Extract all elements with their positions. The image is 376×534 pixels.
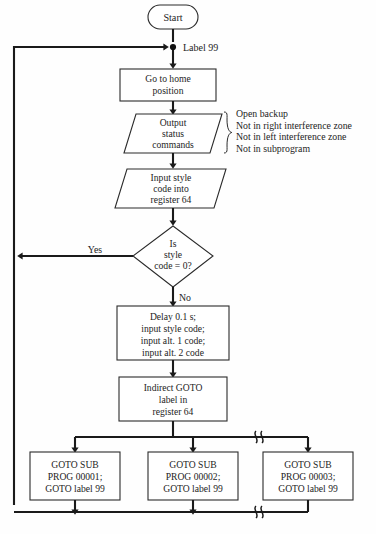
node-input-style-line-3: register 64 <box>151 194 192 205</box>
node-decision: Is style code = 0? <box>133 226 213 287</box>
node-sub3-line-2: PROG 00003; <box>281 471 336 482</box>
node-sub2: GOTO SUB PROG 00002; GOTO label 99 <box>148 452 238 500</box>
node-sub1-line-3: GOTO label 99 <box>45 483 105 494</box>
node-start-label: Start <box>163 12 182 23</box>
node-sub2-line-1: GOTO SUB <box>169 459 217 470</box>
annotation-brace <box>224 112 232 153</box>
node-delay: Delay 0.1 s; input style code; input alt… <box>117 306 229 360</box>
node-indirect-goto-line-1: Indirect GOTO <box>144 382 203 393</box>
node-input-style-line-2: code into <box>153 183 189 194</box>
collector-bus-bottom <box>14 500 308 518</box>
node-go-home-line-2: position <box>153 85 184 96</box>
node-sub3-line-3: GOTO label 99 <box>278 483 338 494</box>
node-sub2-line-2: PROG 00002; <box>166 471 221 482</box>
flowchart-canvas: Start Label 99 Go to home position Outpu… <box>0 0 376 534</box>
node-delay-line-2: input style code; <box>141 323 204 334</box>
node-output-status-line-2: status <box>162 128 184 139</box>
node-go-home: Go to home position <box>120 69 216 101</box>
fanout-bus-top <box>75 431 308 450</box>
label99-junction-dot <box>170 44 176 50</box>
node-indirect-goto-line-2: label in <box>159 394 188 405</box>
node-input-style: Input style code into register 64 <box>115 169 226 208</box>
node-sub3-line-1: GOTO SUB <box>284 459 332 470</box>
node-sub2-line-3: GOTO label 99 <box>163 483 223 494</box>
annotation-line-4: Not in subprogram <box>236 143 310 154</box>
node-sub1: GOTO SUB PROG 00001; GOTO label 99 <box>30 452 120 500</box>
annotation-line-1: Open backup <box>236 108 288 119</box>
node-sub3: GOTO SUB PROG 00003; GOTO label 99 <box>263 452 353 500</box>
node-sub1-line-1: GOTO SUB <box>51 459 99 470</box>
decision-no-label: No <box>179 292 191 303</box>
node-delay-line-1: Delay 0.1 s; <box>150 311 196 322</box>
node-input-style-line-1: Input style <box>151 172 192 183</box>
node-delay-line-4: input alt. 2 code <box>142 347 204 358</box>
node-delay-line-3: input alt. 1 code; <box>141 335 205 346</box>
node-output-status-line-1: Output <box>160 117 187 128</box>
node-decision-line-2: style <box>164 249 182 260</box>
node-start: Start <box>148 5 198 29</box>
label99-text: Label 99 <box>183 42 218 53</box>
node-indirect-goto: Indirect GOTO label in register 64 <box>119 377 227 421</box>
flowchart-svg: Start Label 99 Go to home position Outpu… <box>0 0 376 534</box>
node-output-status: Output status commands <box>124 114 222 153</box>
node-decision-line-3: code = 0? <box>154 260 191 271</box>
node-output-status-line-3: commands <box>152 139 194 150</box>
decision-yes-label: Yes <box>88 244 102 255</box>
node-go-home-line-1: Go to home <box>145 73 190 84</box>
node-indirect-goto-line-3: register 64 <box>153 406 194 417</box>
annotation-group: Open backup Not in right interference zo… <box>224 108 353 154</box>
node-sub1-line-2: PROG 00001; <box>48 471 103 482</box>
node-decision-line-1: Is <box>170 238 177 249</box>
annotation-line-3: Not in left interference zone <box>236 131 347 142</box>
annotation-line-2: Not in right interference zone <box>236 120 353 131</box>
